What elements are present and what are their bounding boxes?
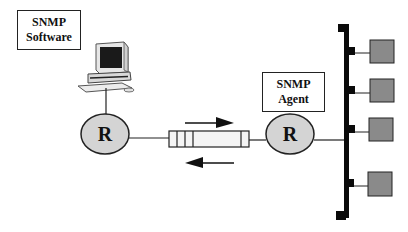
- arrow-left-icon: [185, 157, 234, 168]
- router-right-label: R: [283, 123, 298, 145]
- snmp-software-line2: Software: [26, 30, 72, 45]
- device-1: [348, 40, 394, 63]
- device-4: [347, 172, 392, 196]
- arrow-right-icon: [185, 117, 234, 128]
- network-bus: [336, 24, 349, 220]
- snmp-agent-line1: SNMP: [277, 77, 311, 92]
- snmp-agent-label: SNMP Agent: [262, 72, 325, 112]
- snmp-software-line1: SNMP: [32, 15, 66, 30]
- router-left-label: R: [98, 123, 113, 145]
- router-left: R: [81, 114, 129, 154]
- computer-icon: [78, 42, 134, 92]
- router-right: R: [266, 114, 314, 154]
- device-3: [348, 118, 393, 141]
- message-queue: [169, 131, 249, 147]
- device-2: [348, 79, 394, 102]
- snmp-agent-line2: Agent: [278, 92, 309, 107]
- snmp-software-label: SNMP Software: [17, 10, 81, 50]
